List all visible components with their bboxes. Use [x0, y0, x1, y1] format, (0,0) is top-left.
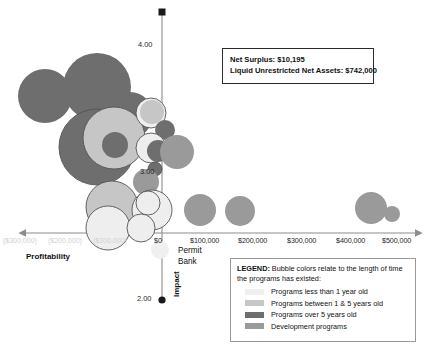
legend-item-label: Programs over 5 years old: [271, 310, 357, 319]
x-tick-label: $400,000: [336, 236, 365, 245]
bubble: [225, 196, 255, 226]
bubble: [136, 98, 166, 128]
bubble: [63, 53, 131, 121]
bubble: [184, 194, 216, 226]
bubble: [59, 109, 135, 185]
y-axis: [158, 9, 165, 304]
legend-header: LEGEND: Bubble colors relate to the leng…: [237, 264, 409, 283]
legend-box: LEGEND: Bubble colors relate to the leng…: [230, 258, 416, 342]
permit-bank-line-2: Bank: [178, 257, 202, 268]
legend-item-label: Development programs: [271, 322, 347, 331]
legend-item: Programs between 1 & 5 years old: [237, 298, 409, 310]
net-surplus-text: Net Surplus: $10,195: [230, 55, 366, 66]
legend-swatch: [245, 323, 264, 329]
legend-item: Development programs: [237, 321, 409, 333]
legend-item-label: Programs less than 1 year old: [271, 287, 368, 296]
x-tick-label: ($100,000): [93, 236, 127, 245]
bubble: [107, 92, 153, 138]
x-tick-label: $0: [154, 236, 162, 245]
bubble: [155, 120, 175, 140]
bubble: [136, 191, 160, 215]
legend-swatch: [245, 289, 264, 295]
bubble: [132, 190, 172, 230]
y-tick-label: 2.00: [137, 294, 151, 303]
legend-items: Programs less than 1 year oldPrograms be…: [237, 286, 409, 332]
legend-item: Programs less than 1 year old: [237, 286, 409, 298]
bubble: [384, 206, 400, 222]
x-tick-label: $500,000: [382, 236, 411, 245]
legend-swatch: [245, 312, 264, 318]
legend-item-label: Programs between 1 & 5 years old: [271, 299, 383, 308]
bubble: [18, 69, 72, 123]
x-tick-label: $300,000: [287, 236, 316, 245]
summary-callout-box: Net Surplus: $10,195 Liquid Unrestricted…: [222, 48, 374, 84]
x-tick-label: $100,000: [190, 236, 219, 245]
y-tick-label: 3.00: [140, 167, 154, 176]
legend-title: LEGEND:: [237, 264, 270, 273]
x-tick-label: ($300,000): [3, 236, 37, 245]
permit-bank-line-1: Permit: [178, 246, 202, 257]
x-tick-label: ($200,000): [48, 236, 82, 245]
bubble-chart: ($300,000) ($200,000) ($100,000) $0 $100…: [0, 0, 424, 349]
x-axis-title: Profitability: [26, 252, 70, 261]
liquid-assets-text: Liquid Unrestricted Net Assets: $742,000: [230, 66, 366, 77]
y-axis-title: Impact: [172, 271, 181, 297]
bubble: [160, 135, 194, 169]
permit-bank-annotation: Permit Bank: [178, 246, 202, 267]
y-tick-label: 4.00: [138, 40, 152, 49]
x-tick-label: $200,000: [238, 236, 267, 245]
bubble: [127, 214, 155, 242]
bubble: [86, 181, 138, 233]
legend-swatch: [245, 300, 264, 306]
bubble: [83, 107, 145, 169]
legend-item: Programs over 5 years old: [237, 309, 409, 321]
bubble: [140, 100, 164, 124]
bubble: [355, 192, 387, 224]
bubble: [102, 132, 128, 158]
bubble: [147, 140, 169, 162]
bubble: [136, 133, 166, 163]
